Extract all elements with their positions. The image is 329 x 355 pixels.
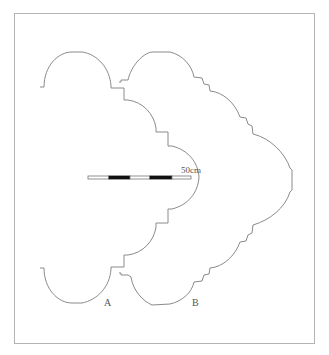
scale-bar: 50cm	[88, 165, 201, 179]
scale-segment-5	[172, 176, 191, 179]
label-shape-a: A	[104, 297, 112, 308]
label-shape-b: B	[192, 297, 199, 308]
scale-label: 50cm	[181, 165, 201, 175]
scale-segment-2	[109, 176, 130, 179]
scale-segment-3	[130, 176, 150, 179]
figure-canvas: 50cm A B	[0, 0, 329, 355]
scale-segment-1	[88, 176, 109, 179]
scale-segment-4	[150, 176, 172, 179]
